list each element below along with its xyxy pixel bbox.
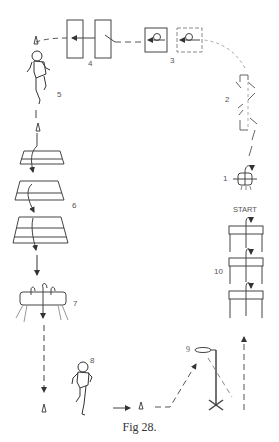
- station-label-7: 7: [73, 300, 77, 308]
- roll-mats-station-3: [145, 28, 202, 52]
- station-label-10: 10: [214, 268, 223, 276]
- cone-icon: [139, 402, 143, 409]
- cone-icon: [34, 36, 38, 44]
- circuit-diagram: [0, 0, 279, 442]
- start-label: START: [233, 206, 257, 214]
- runner-figure-8: [72, 362, 92, 415]
- runner-figure-5: [27, 51, 50, 104]
- station-label-1: 1: [223, 175, 227, 183]
- hurdles-station-2: [236, 75, 257, 156]
- station-label-2: 2: [225, 96, 229, 104]
- station-label-6: 6: [72, 202, 76, 210]
- box-sections-station-6: [13, 146, 68, 250]
- station-label-4: 4: [88, 60, 92, 68]
- cone-icon: [36, 123, 40, 131]
- station-label-9: 9: [186, 346, 190, 354]
- figure-caption: Fig 28.: [0, 420, 279, 435]
- station-label-8: 8: [90, 357, 94, 365]
- hoop-station-9: [195, 348, 232, 411]
- long-mats-station-4: [67, 20, 115, 58]
- benches-station-10: [229, 218, 263, 319]
- pommel-horse-station-7: [16, 284, 68, 323]
- station-label-3: 3: [170, 57, 174, 65]
- box-station-1: [233, 166, 257, 190]
- station-label-5: 5: [57, 91, 61, 99]
- cone-icon: [42, 404, 46, 412]
